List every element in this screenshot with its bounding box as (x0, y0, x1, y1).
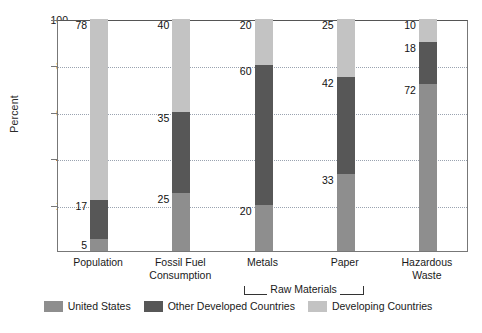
legend-item[interactable]: Developing Countries (308, 300, 432, 312)
bar-metals[interactable]: 206020 (255, 19, 273, 251)
legend-item[interactable]: United States (44, 300, 131, 312)
bar-value-label: 17 (75, 201, 87, 212)
x-category-line1: Fossil Fuel (155, 256, 206, 268)
bar-value-label: 60 (240, 66, 252, 77)
legend-swatch-other-developed (144, 301, 163, 312)
bar-value-label: 20 (240, 20, 252, 31)
x-category-line1: Hazardous (402, 256, 453, 268)
bar-segment[interactable]: 25 (172, 193, 190, 251)
bar-segment[interactable]: 10 (419, 19, 437, 42)
bar-segment[interactable]: 78 (90, 19, 108, 200)
bracket-tick-left (244, 286, 245, 295)
bar-value-label: 20 (240, 206, 252, 217)
bar-segment[interactable]: 25 (337, 19, 355, 77)
bar-value-label: 72 (404, 85, 416, 96)
x-category-line1: Paper (331, 256, 359, 268)
x-category-line1: Population (73, 256, 123, 268)
bracket-tick-right (363, 286, 364, 295)
bar-value-label: 5 (81, 240, 87, 251)
raw-materials-bracket: Raw Materials (237, 283, 371, 299)
plot-area: 51778253540206020334225721810 (57, 20, 468, 252)
stacked-bar-chart: Percent 20406080100 51778253540206020334… (0, 0, 482, 333)
bar-segment[interactable]: 17 (90, 200, 108, 239)
bar-population[interactable]: 51778 (90, 19, 108, 251)
bar-segment[interactable]: 60 (255, 65, 273, 204)
legend-item[interactable]: Other Developed Countries (144, 300, 295, 312)
bar-segment[interactable]: 35 (172, 112, 190, 193)
bar-segment[interactable]: 72 (419, 84, 437, 251)
chart-legend: United StatesOther Developed CountriesDe… (0, 300, 482, 312)
y-axis-title: Percent (8, 64, 20, 164)
bar-fossil-fuel-consumption[interactable]: 253540 (172, 19, 190, 251)
x-category-line2: Consumption (126, 269, 234, 282)
bar-value-label: 25 (322, 20, 334, 31)
x-category-line2: Waste (373, 269, 481, 282)
bar-segment[interactable]: 40 (172, 19, 190, 112)
legend-label: Other Developed Countries (168, 300, 295, 312)
bar-value-label: 25 (158, 194, 170, 205)
bar-value-label: 10 (404, 20, 416, 31)
legend-swatch-united-states (44, 301, 63, 312)
bar-segment[interactable]: 33 (337, 174, 355, 251)
bar-value-label: 35 (158, 113, 170, 124)
x-category-line1: Metals (247, 256, 278, 268)
bar-value-label: 40 (158, 20, 170, 31)
legend-label: Developing Countries (332, 300, 432, 312)
bar-hazardous-waste[interactable]: 721810 (419, 19, 437, 251)
bracket-label: Raw Materials (267, 283, 340, 295)
bar-segment[interactable]: 18 (419, 42, 437, 84)
bar-segment[interactable]: 20 (255, 19, 273, 65)
bar-value-label: 18 (404, 43, 416, 54)
bar-paper[interactable]: 334225 (337, 19, 355, 251)
x-category-label-hazardous-waste: HazardousWaste (373, 256, 481, 282)
bar-value-label: 42 (322, 78, 334, 89)
bar-value-label: 78 (75, 20, 87, 31)
bar-segment[interactable]: 20 (255, 205, 273, 251)
bar-segment[interactable]: 42 (337, 77, 355, 174)
legend-label: United States (68, 300, 131, 312)
bar-segment[interactable]: 5 (90, 239, 108, 251)
bar-value-label: 33 (322, 175, 334, 186)
legend-swatch-developing (308, 301, 327, 312)
